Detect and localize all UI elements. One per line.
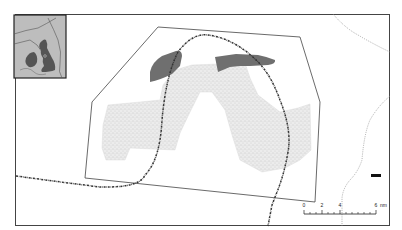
scale-label-4: 4 bbox=[339, 202, 342, 208]
inset-locator-map bbox=[14, 15, 66, 78]
map-figure: 0 2 4 6 nm bbox=[0, 0, 402, 230]
scale-label-2: 2 bbox=[321, 202, 324, 208]
scale-unit: nm bbox=[380, 202, 387, 208]
map-canvas: 0 2 4 6 nm bbox=[0, 0, 402, 230]
map-frame bbox=[16, 15, 390, 226]
scale-label-0: 0 bbox=[303, 202, 306, 208]
map-marker bbox=[371, 174, 381, 177]
scale-label-6: 6 bbox=[375, 202, 378, 208]
